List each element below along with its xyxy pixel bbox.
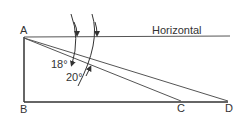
- angle-arc-18: [71, 14, 76, 64]
- angle-arrow-20-bottom: [86, 68, 90, 76]
- point-a-label: A: [20, 25, 27, 36]
- diagram-canvas: [0, 0, 249, 122]
- line-ac: [24, 38, 181, 101]
- point-d-label: D: [225, 103, 233, 114]
- angle-arrow-20-top: [95, 22, 97, 34]
- angle-label-20: 20°: [66, 72, 83, 83]
- point-b-label: B: [20, 104, 27, 115]
- horizontal-line: [24, 36, 230, 37]
- horizontal-label: Horizontal: [152, 25, 202, 36]
- point-c-label: C: [177, 103, 185, 114]
- angle-label-18: 18°: [51, 59, 68, 70]
